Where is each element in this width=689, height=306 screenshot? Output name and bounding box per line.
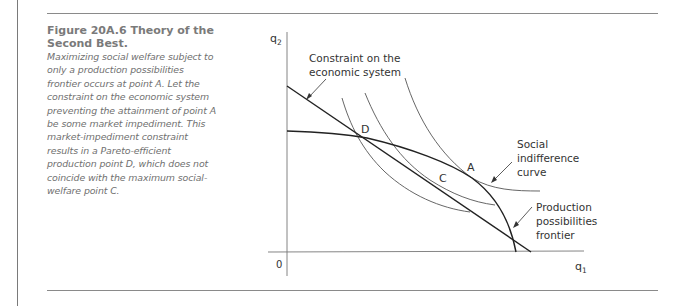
indifference-curve-middle — [365, 93, 495, 205]
ppf-annotation-line2: possibilities — [536, 215, 597, 227]
sic-arrowhead-icon — [491, 176, 497, 183]
origin-label: 0 — [276, 259, 282, 270]
point-a-label: A — [467, 161, 475, 174]
production-possibilities-frontier — [287, 131, 516, 252]
sic-annotation-line1: Social — [517, 138, 548, 150]
constraint-annotation-line1: Constraint on the — [309, 52, 400, 64]
sic-annotation-line2: indifference — [517, 152, 579, 164]
constraint-arrowhead-icon — [306, 93, 312, 100]
second-best-diagram: q2 q1 0 D A C Constraint on the economic… — [0, 0, 689, 306]
sic-annotation-arrow — [494, 162, 512, 180]
x-axis — [268, 251, 584, 252]
sic-annotation-line3: curve — [517, 166, 546, 178]
point-d-label: D — [361, 123, 369, 136]
x-axis-label: q1 — [575, 260, 587, 275]
indifference-curve-inner — [342, 98, 470, 212]
constraint-line — [287, 86, 531, 252]
point-c-label: C — [439, 172, 447, 185]
y-axis-label: q2 — [270, 32, 282, 47]
constraint-annotation-line2: economic system — [309, 66, 401, 78]
ppf-annotation-line1: Production — [536, 201, 592, 213]
ppf-annotation-line3: frontier — [536, 229, 575, 241]
constraint-annotation-arrow — [309, 79, 326, 97]
ppf-annotation-arrow — [516, 207, 532, 225]
